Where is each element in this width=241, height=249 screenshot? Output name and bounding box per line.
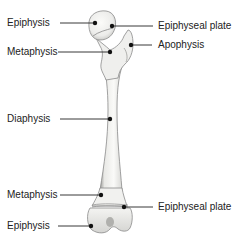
- distal-metaphysis: [92, 188, 127, 206]
- dot-metaphysis-proximal: [108, 50, 112, 54]
- label-epiphyseal-plate-proximal: Epiphyseal plate: [158, 20, 231, 32]
- dot-metaphysis-distal: [99, 193, 103, 197]
- dot-apophysis: [129, 43, 133, 47]
- label-metaphysis-proximal: Metaphysis: [7, 46, 58, 58]
- label-diaphysis: Diaphysis: [7, 113, 50, 125]
- femur-diagram: Epiphysis Metaphysis Diaphysis Metaphysi…: [0, 0, 241, 249]
- label-metaphysis-distal: Metaphysis: [7, 189, 58, 201]
- dot-diaphysis: [108, 117, 112, 121]
- intercondylar-notch: [106, 217, 114, 227]
- label-epiphysis-distal: Epiphysis: [7, 220, 50, 232]
- dot-epiphysis-distal: [89, 224, 93, 228]
- label-epiphyseal-plate-distal: Epiphyseal plate: [158, 201, 231, 213]
- label-epiphysis-proximal: Epiphysis: [7, 17, 50, 29]
- dot-epiphyseal-plate-proximal: [110, 24, 114, 28]
- dot-epiphysis-proximal: [93, 21, 97, 25]
- label-apophysis: Apophysis: [158, 39, 204, 51]
- dot-epiphyseal-plate-distal: [122, 205, 126, 209]
